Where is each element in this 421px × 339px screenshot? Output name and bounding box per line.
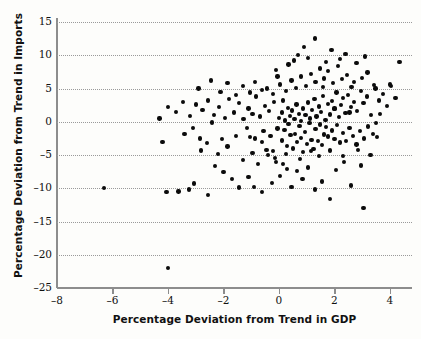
data-point: [355, 109, 359, 113]
data-point: [310, 108, 314, 112]
data-point: [157, 116, 161, 120]
data-point: [360, 76, 364, 80]
data-point: [252, 185, 256, 189]
data-point: [234, 134, 238, 138]
data-point: [339, 103, 343, 107]
plot-area: [57, 22, 412, 288]
data-point: [393, 96, 397, 100]
data-point: [309, 138, 313, 142]
x-tick-label: –6: [92, 294, 132, 306]
data-point: [352, 80, 356, 84]
data-point: [330, 128, 334, 132]
data-point: [217, 105, 221, 109]
data-point: [200, 108, 204, 112]
data-point: [271, 92, 275, 96]
data-point: [253, 136, 257, 140]
data-point: [260, 88, 264, 92]
data-point: [265, 86, 269, 90]
data-point: [361, 206, 365, 210]
data-point: [232, 110, 236, 114]
data-point: [181, 100, 185, 104]
data-point: [359, 163, 363, 167]
data-point: [216, 152, 220, 156]
data-point: [218, 90, 222, 94]
data-point: [280, 138, 284, 142]
data-point: [308, 116, 312, 120]
data-point: [260, 190, 264, 194]
data-point: [294, 86, 298, 90]
data-point: [351, 134, 355, 138]
data-point: [337, 115, 341, 119]
data-point: [299, 136, 303, 140]
data-point: [319, 110, 323, 114]
data-point: [347, 110, 351, 114]
data-point: [347, 126, 351, 130]
data-point: [258, 114, 262, 118]
data-point: [305, 142, 309, 146]
data-point: [378, 112, 382, 116]
data-point: [349, 85, 353, 89]
data-point: [281, 98, 285, 102]
data-point: [290, 108, 294, 112]
data-point: [334, 168, 338, 172]
data-point: [385, 104, 389, 108]
data-point: [194, 102, 198, 106]
data-point: [381, 92, 385, 96]
data-point: [289, 185, 293, 189]
data-point: [192, 181, 196, 185]
y-tick-label: 15: [2, 15, 52, 27]
data-point: [321, 94, 325, 98]
data-point: [346, 93, 350, 97]
data-point: [285, 144, 289, 148]
data-point: [296, 53, 300, 57]
data-point: [335, 123, 339, 127]
data-point: [366, 124, 370, 128]
data-point: [303, 113, 307, 117]
data-point: [299, 119, 303, 123]
data-point: [369, 113, 373, 117]
data-point: [274, 68, 278, 72]
x-tick-label: 0: [259, 294, 299, 306]
data-point: [271, 149, 275, 153]
y-tick-label: –10: [2, 181, 52, 193]
data-point: [278, 82, 282, 86]
data-point: [248, 135, 252, 139]
data-point: [164, 190, 168, 194]
data-point: [330, 99, 334, 103]
data-point: [397, 60, 401, 64]
data-point: [313, 80, 317, 84]
data-point: [278, 174, 282, 178]
data-point: [160, 140, 164, 144]
data-point: [363, 54, 367, 58]
data-point: [300, 177, 304, 181]
data-point: [234, 93, 238, 97]
data-point: [323, 118, 327, 122]
data-point: [199, 148, 203, 152]
data-point: [225, 144, 229, 148]
data-point: [263, 104, 267, 108]
data-point: [295, 169, 299, 173]
data-point: [206, 98, 210, 102]
data-point: [320, 179, 324, 183]
x-tick-label: –8: [37, 294, 77, 306]
data-point: [275, 126, 279, 130]
data-point: [209, 78, 213, 82]
data-point: [361, 101, 365, 105]
data-point: [324, 125, 328, 129]
data-point: [352, 100, 356, 104]
data-point: [245, 126, 249, 130]
data-point: [166, 266, 170, 270]
data-point: [246, 175, 250, 179]
data-point: [338, 57, 342, 61]
data-point: [292, 117, 296, 121]
data-point: [307, 121, 311, 125]
data-point: [273, 156, 277, 160]
data-point: [250, 151, 254, 155]
y-tick-label: –25: [2, 281, 52, 293]
data-point: [318, 66, 322, 70]
data-point: [342, 160, 346, 164]
data-point: [250, 112, 254, 116]
data-point: [268, 134, 272, 138]
data-point: [354, 61, 358, 65]
data-point: [302, 45, 306, 49]
